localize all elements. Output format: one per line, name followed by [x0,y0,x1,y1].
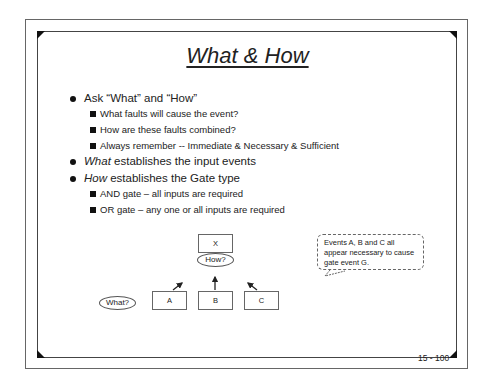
page-number: 15 - 100 [418,353,449,363]
how-ellipse: How? [197,253,234,267]
input-box-c: C [244,291,279,310]
input-box-a: A [152,291,187,310]
what-ellipse: What? [99,296,136,310]
diagram-arrows [0,0,495,392]
top-event-box: X [198,234,233,253]
callout-note: Events A, B and C all appear necessary t… [317,234,424,270]
input-box-b: B [198,291,233,310]
